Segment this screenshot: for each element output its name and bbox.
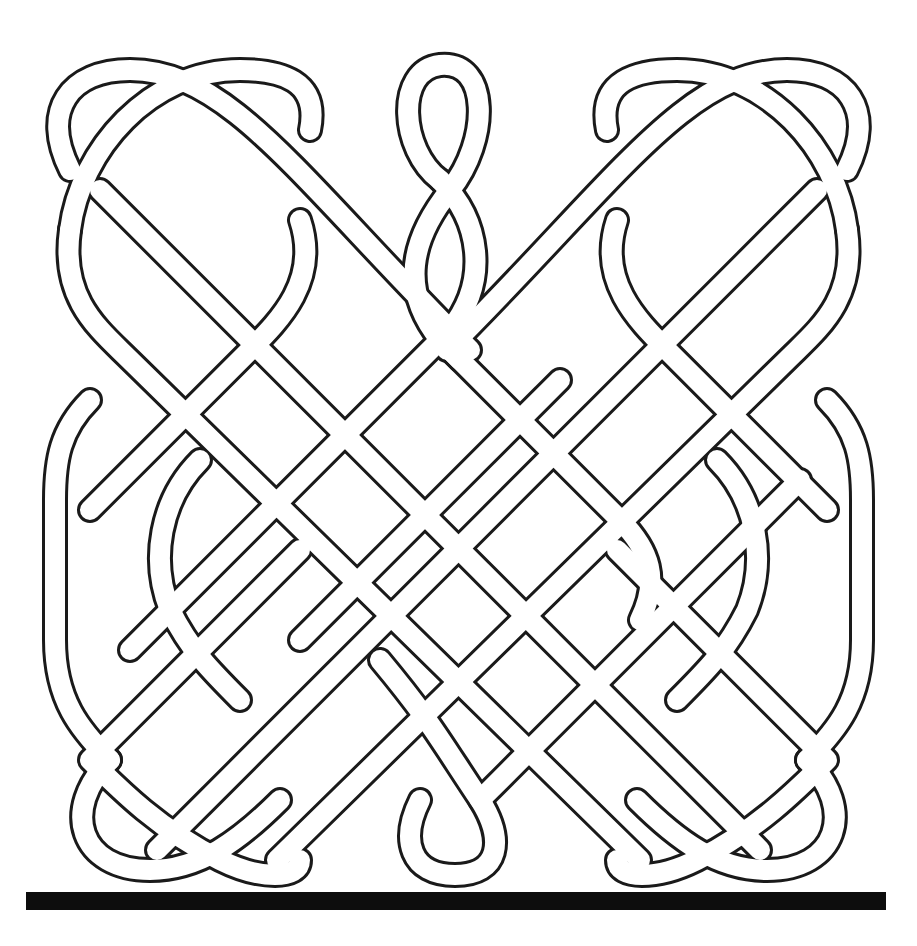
celtic-knot-artwork [0, 0, 917, 946]
base-bar [26, 892, 886, 910]
